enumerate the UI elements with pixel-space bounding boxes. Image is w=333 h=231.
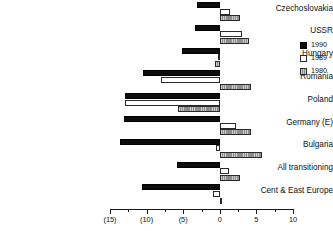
bar-1989-ussr xyxy=(220,31,242,37)
bar-1989-czechoslovakia xyxy=(220,9,230,15)
legend-label: 1989 xyxy=(311,54,327,62)
x-tick-minor xyxy=(128,209,129,212)
x-tick-label: (5) xyxy=(170,216,196,224)
bar-1990-czechoslovakia xyxy=(197,2,220,8)
bar-1989-hungary xyxy=(218,54,220,60)
bar-1989-germany-e xyxy=(220,123,236,129)
legend-swatch-1989 xyxy=(300,55,307,62)
bar-1989-romania xyxy=(161,77,220,83)
bar-1980-poland xyxy=(178,106,220,112)
bar-chart: CzechoslovakiaUSSRHungaryRomaniaPolandGe… xyxy=(0,0,333,231)
x-tick-major xyxy=(256,209,257,214)
x-tick-label: (10) xyxy=(134,216,160,224)
x-tick-minor xyxy=(165,209,166,212)
bar-1989-all-transitioning xyxy=(220,168,229,174)
bar-1980-hungary xyxy=(215,61,220,67)
x-tick-major xyxy=(220,209,221,214)
x-tick-major xyxy=(183,209,184,214)
legend-label: 1980 xyxy=(311,67,327,75)
x-tick-label: 5 xyxy=(243,216,269,224)
legend-swatch-1980 xyxy=(300,68,307,75)
legend-item: 1990 xyxy=(300,40,327,50)
bar-1990-ussr xyxy=(195,25,220,31)
x-tick-major xyxy=(293,209,294,214)
x-tick-minor xyxy=(238,209,239,212)
bar-1990-romania xyxy=(143,70,220,76)
bar-1980-romania xyxy=(220,84,251,90)
bar-1989-cent-east-europe xyxy=(213,191,220,197)
x-tick-label: 10 xyxy=(280,216,306,224)
legend-swatch-1990 xyxy=(300,42,307,49)
legend-label: 1990 xyxy=(311,41,327,49)
bar-1980-ussr xyxy=(220,38,249,44)
legend-item: 1989 xyxy=(300,53,327,63)
bar-1980-germany-e xyxy=(220,129,251,135)
plot-area xyxy=(110,0,293,205)
bar-1990-bulgaria xyxy=(120,139,220,145)
bar-1980-bulgaria xyxy=(220,152,262,158)
x-tick-label: 0 xyxy=(207,216,233,224)
bar-1990-cent-east-europe xyxy=(142,184,220,190)
x-tick-label: (15) xyxy=(97,216,123,224)
legend-item: 1980 xyxy=(300,66,327,76)
bar-1980-czechoslovakia xyxy=(220,15,240,21)
x-tick-minor xyxy=(275,209,276,212)
bar-1990-all-transitioning xyxy=(177,162,220,168)
bar-1990-poland xyxy=(125,93,220,99)
x-tick-minor xyxy=(202,209,203,212)
bar-1989-bulgaria xyxy=(216,145,220,151)
bar-1990-germany-e xyxy=(124,116,220,122)
chart-legend: 199019891980 xyxy=(300,40,327,79)
bar-1980-all-transitioning xyxy=(220,175,240,181)
x-tick-major xyxy=(110,209,111,214)
x-tick-major xyxy=(147,209,148,214)
bar-1980-cent-east-europe xyxy=(220,198,222,204)
bar-1989-poland xyxy=(125,100,219,106)
bar-1990-hungary xyxy=(182,48,219,54)
